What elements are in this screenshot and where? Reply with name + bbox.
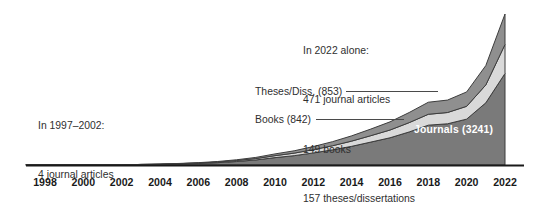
annotation-2022-line-1: In 2022 alone:	[303, 44, 415, 57]
chart-figure: In 1997–2002: 4 journal articles 3 books…	[0, 0, 550, 203]
annotation-2022-line-4: 157 theses/dissertations	[303, 192, 415, 203]
series-label-theses: Theses/Diss. (853)	[255, 86, 342, 98]
x-tick-2022: 2022	[482, 176, 528, 188]
annotation-2022-alone: In 2022 alone: 471 journal articles 149 …	[303, 8, 415, 203]
series-label-journals: Journals (3241)	[414, 124, 493, 135]
annotation-1997-2002-line-1: In 1997–2002:	[38, 119, 114, 132]
annotation-2022-line-3: 149 books	[303, 143, 415, 156]
series-label-books: Books (842)	[255, 114, 311, 126]
